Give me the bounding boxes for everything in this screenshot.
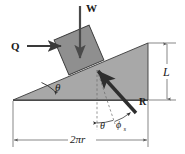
free-body-diagram-figure: W Q R θ ϕ s θ L 2πr: [0, 0, 185, 154]
reaction-force-label: R: [139, 96, 147, 107]
weight-force-label: W: [86, 2, 97, 14]
diagram-canvas: W Q R θ ϕ s θ L 2πr: [0, 0, 185, 154]
phi-angle-subscript: s: [124, 125, 127, 132]
phi-angle-label: ϕ: [116, 119, 121, 130]
incline-angle-label: θ: [55, 81, 61, 93]
applied-force-label: Q: [11, 40, 20, 52]
height-dimension-label: L: [162, 65, 170, 79]
theta-angle-label-lower: θ: [100, 120, 105, 131]
base-dimension-label: 2πr: [70, 133, 86, 145]
